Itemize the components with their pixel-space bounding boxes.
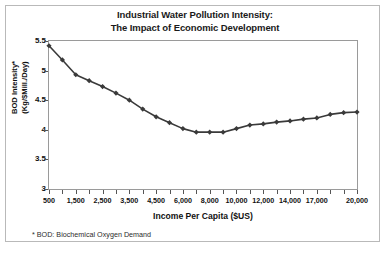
x-axis-tick-label: 20,000 <box>346 196 368 205</box>
data-series-line <box>49 41 357 189</box>
data-point-marker <box>167 120 172 125</box>
page-title: Industrial Water Pollution Intensity: Th… <box>40 9 350 34</box>
x-axis-tick-label: 4,500 <box>147 196 165 205</box>
data-point-marker <box>100 84 105 89</box>
data-point-marker <box>287 118 292 123</box>
data-point-marker <box>341 110 346 115</box>
x-axis-tick-mark <box>290 190 291 194</box>
y-axis-tick-label: 4.5 <box>24 95 46 104</box>
x-axis-tick-mark <box>223 190 224 194</box>
x-axis-tick-mark <box>62 190 63 194</box>
x-axis-tick-label: 6,000 <box>174 196 192 205</box>
x-axis-tick-mark <box>250 190 251 194</box>
x-axis-tick-label: 12,000 <box>252 196 274 205</box>
data-point-marker <box>328 112 333 117</box>
x-axis-tick-label: 8,000 <box>201 196 219 205</box>
x-axis-tick-mark <box>89 190 90 194</box>
x-axis-tick-mark <box>76 190 77 194</box>
x-axis-tick-mark <box>103 190 104 194</box>
footnote: * BOD: Biochemical Oxygen Demand <box>32 230 151 239</box>
y-axis-tick-label: 5 <box>24 65 46 74</box>
series-line <box>49 46 357 132</box>
x-axis-title: Income Per Capita ($US) <box>48 211 358 221</box>
x-axis-tick-label: 500 <box>43 196 55 205</box>
data-point-marker <box>207 130 212 135</box>
data-point-marker <box>194 130 199 135</box>
y-axis-tick-label: 5.5 <box>24 36 46 45</box>
x-axis-tick-label: 3,500 <box>120 196 138 205</box>
data-point-marker <box>261 121 266 126</box>
x-axis-tick-mark <box>116 190 117 194</box>
x-axis-tick-mark <box>49 190 50 194</box>
x-axis-tick-mark <box>210 190 211 194</box>
x-axis-tick-mark <box>303 190 304 194</box>
chart-title-line1: Industrial Water Pollution Intensity: <box>117 9 273 20</box>
x-axis-tick-mark <box>143 190 144 194</box>
x-axis-tick-mark <box>196 190 197 194</box>
x-axis-tick-mark <box>170 190 171 194</box>
x-axis-tick-label: 17,000 <box>306 196 328 205</box>
chart-figure: Industrial Water Pollution Intensity: Th… <box>0 0 389 255</box>
x-axis-tick-mark <box>330 190 331 194</box>
data-point-marker <box>180 126 185 131</box>
x-axis-tick-mark <box>277 190 278 194</box>
y-axis-tick-label: 3.5 <box>24 154 46 163</box>
x-axis-tick-mark <box>357 190 358 194</box>
y-axis-tick-label: 3 <box>24 184 46 193</box>
plot-inner <box>49 41 357 189</box>
data-point-marker <box>220 130 225 135</box>
y-axis-title-main: BOD Intensity* <box>10 33 20 143</box>
data-point-marker <box>301 117 306 122</box>
data-point-marker <box>314 115 319 120</box>
chart-title-line2: The Impact of Economic Development <box>40 22 350 35</box>
data-point-marker <box>87 78 92 83</box>
data-point-marker <box>234 126 239 131</box>
x-axis-tick-mark <box>317 190 318 194</box>
x-axis-tick-label: 1,500 <box>67 196 85 205</box>
data-point-marker <box>274 120 279 125</box>
x-axis-tick-mark <box>156 190 157 194</box>
x-axis-tick-mark <box>236 190 237 194</box>
x-axis-tick-mark <box>263 190 264 194</box>
x-axis-tick-mark <box>183 190 184 194</box>
x-axis-tick-mark <box>129 190 130 194</box>
x-axis-tick-mark <box>344 190 345 194</box>
data-point-marker <box>247 122 252 127</box>
plot-area <box>48 40 358 190</box>
x-axis-tick-label: 10,000 <box>225 196 247 205</box>
y-axis-tick-labels: 33.544.555.5 <box>22 40 46 190</box>
x-axis-tick-label: 2,500 <box>94 196 112 205</box>
x-axis-tick-label: 14,000 <box>279 196 301 205</box>
y-axis-tick-label: 4 <box>24 124 46 133</box>
